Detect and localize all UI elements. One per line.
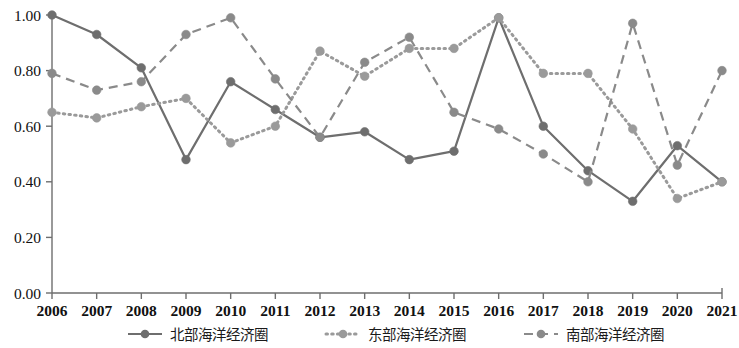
- data-point: [673, 161, 682, 170]
- data-point: [584, 69, 593, 78]
- x-tick-label-2007: 2007: [81, 302, 112, 319]
- data-point: [718, 178, 727, 187]
- data-point: [137, 64, 146, 73]
- data-point: [628, 125, 637, 134]
- data-point: [539, 69, 548, 78]
- data-point: [450, 44, 459, 53]
- data-point: [494, 125, 503, 134]
- series-line: [52, 15, 722, 201]
- data-point: [226, 13, 235, 22]
- legend-label: 南部海洋经济圈: [566, 327, 664, 343]
- data-point: [92, 30, 101, 39]
- data-point: [271, 122, 280, 131]
- data-point: [584, 178, 593, 187]
- data-point: [360, 58, 369, 67]
- series-2: [48, 13, 727, 202]
- chart-legend: 北部海洋经济圈东部海洋经济圈南部海洋经济圈: [128, 327, 664, 343]
- data-point: [673, 194, 682, 203]
- y-tick-label: 1.00: [14, 7, 41, 24]
- data-point: [718, 66, 727, 75]
- data-point: [182, 94, 191, 103]
- legend-label: 东部海洋经济圈: [368, 327, 466, 343]
- data-point: [226, 77, 235, 86]
- x-tick-label-2012: 2012: [305, 302, 336, 319]
- legend-item-1[interactable]: 北部海洋经济圈: [128, 327, 268, 343]
- data-point: [450, 147, 459, 156]
- data-point: [360, 72, 369, 81]
- data-point: [182, 155, 191, 164]
- data-point: [271, 105, 280, 114]
- series-line: [52, 18, 722, 182]
- data-point: [316, 133, 325, 142]
- data-point: [405, 33, 414, 42]
- series-3: [48, 13, 727, 186]
- x-tick-label-2018: 2018: [573, 302, 604, 319]
- data-point: [450, 108, 459, 117]
- x-tick-label-2011: 2011: [260, 302, 290, 319]
- x-tick-label-2008: 2008: [126, 302, 157, 319]
- line-chart: 0.000.200.400.600.801.00 200620072008200…: [0, 0, 739, 348]
- data-point: [48, 69, 57, 78]
- y-tick-label: 0.80: [14, 62, 41, 79]
- data-point: [360, 128, 369, 137]
- data-point: [494, 13, 503, 22]
- data-point: [182, 30, 191, 39]
- data-series-group: [48, 11, 727, 206]
- x-tick-label-2016: 2016: [483, 302, 514, 319]
- y-tick-label: 0.60: [14, 118, 41, 135]
- legend-item-2[interactable]: 东部海洋经济圈: [326, 327, 466, 343]
- x-tick-label-2019: 2019: [617, 302, 648, 319]
- data-point: [48, 108, 57, 117]
- data-point: [271, 75, 280, 84]
- legend-label: 北部海洋经济圈: [170, 327, 268, 343]
- data-point: [539, 122, 548, 131]
- series-line: [52, 18, 722, 199]
- x-tick-label-2014: 2014: [394, 302, 425, 319]
- x-tick-label-2015: 2015: [439, 302, 470, 319]
- y-tick-label: 0.20: [14, 229, 41, 246]
- legend-marker-icon: [537, 330, 546, 339]
- data-point: [628, 19, 637, 28]
- x-tick-label-2021: 2021: [707, 302, 738, 319]
- data-point: [92, 114, 101, 123]
- data-point: [673, 141, 682, 150]
- x-tick-label-2010: 2010: [215, 302, 246, 319]
- y-tick-label: 0.00: [14, 285, 41, 302]
- data-point: [628, 197, 637, 206]
- x-tick-label-2006: 2006: [37, 302, 68, 319]
- legend-item-3[interactable]: 南部海洋经济圈: [524, 327, 664, 343]
- data-point: [137, 77, 146, 86]
- data-point: [405, 44, 414, 53]
- data-point: [539, 150, 548, 159]
- series-1: [48, 11, 727, 206]
- data-point: [48, 11, 57, 20]
- x-tick-label-2020: 2020: [662, 302, 693, 319]
- chart-canvas: 0.000.200.400.600.801.00 200620072008200…: [0, 0, 739, 348]
- x-tick-label-2017: 2017: [528, 302, 559, 319]
- data-point: [92, 86, 101, 95]
- legend-marker-icon: [141, 330, 150, 339]
- data-point: [137, 102, 146, 111]
- x-tick-label-2013: 2013: [349, 302, 380, 319]
- data-point: [405, 155, 414, 164]
- y-axis: 0.000.200.400.600.801.00: [14, 7, 52, 302]
- data-point: [226, 139, 235, 148]
- y-tick-label: 0.40: [14, 173, 41, 190]
- legend-marker-icon: [339, 330, 348, 339]
- x-tick-label-2009: 2009: [171, 302, 202, 319]
- x-axis: 2006200720082009201020112012201320142015…: [37, 288, 738, 319]
- data-point: [316, 47, 325, 56]
